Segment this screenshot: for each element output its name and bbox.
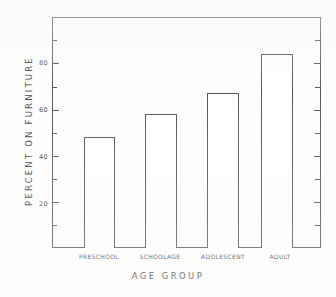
x-tick-label-schoolage: SCHOOLAGE [131, 253, 189, 261]
y-tick-label-80: 80 [28, 60, 48, 67]
bar-preschool[interactable] [84, 137, 115, 248]
bar-adult[interactable] [261, 54, 293, 248]
y-tick-label-20: 20 [28, 201, 48, 208]
bar-schoolage[interactable] [145, 114, 177, 248]
x-axis-title: AGE GROUP [0, 271, 336, 281]
x-tick-label-preschool: PRESCHOOL [70, 253, 128, 261]
x-tick-label-adult: ADULT [254, 253, 306, 261]
bars-layer [52, 17, 321, 248]
x-tick-label-adolescent: ADOLESCENT [192, 253, 254, 261]
bar-chart-figure: PERCENT ON FURNITURE 80 60 40 20 PRESCHO… [0, 0, 336, 297]
y-tick-label-60: 60 [28, 107, 48, 114]
bar-adolescent[interactable] [207, 93, 239, 248]
y-tick-label-40: 40 [28, 154, 48, 161]
